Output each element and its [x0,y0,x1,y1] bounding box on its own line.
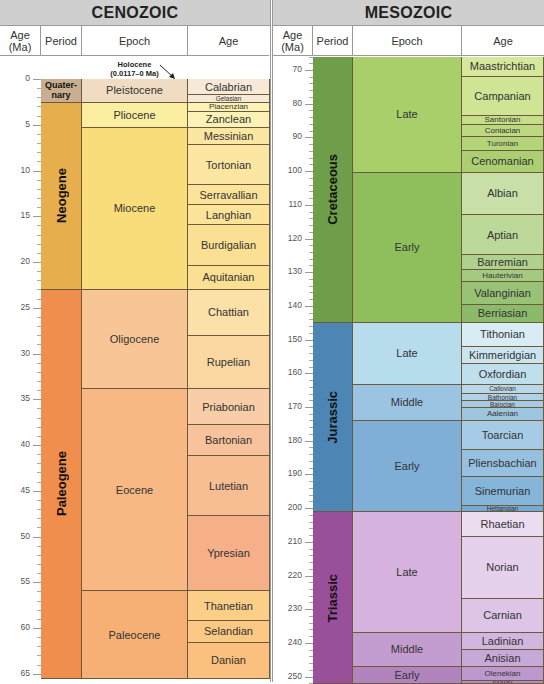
ages-block: Thanetian [188,591,270,620]
ages-block: Hettangian [462,506,544,513]
major-tick [305,508,313,509]
ages-label: Maastrichtian [470,60,535,72]
ages-label: Hauterivian [482,271,522,280]
ages-label: Selandian [204,625,253,637]
ages-label: Norian [486,561,518,573]
ages-block: Norian [462,537,544,599]
major-tick [305,205,313,206]
periods-block: Paleogene [41,290,82,680]
tick-label: 55 [4,576,30,586]
tick-label: 45 [4,485,30,495]
major-tick [33,445,41,446]
ages-block: Carnian [462,599,544,633]
epochs-label: Pleistocene [106,84,163,96]
ages-block: Olenekian [462,667,544,680]
ages-label: Sinemurian [475,485,531,497]
ages-label: Carnian [483,609,522,621]
tick-label: 160 [276,367,302,377]
ages-block: Piacenzian [188,103,270,112]
periods-block: Quater- nary [41,79,82,103]
tick-label: 230 [276,603,302,613]
ages-block: Albian [462,173,544,215]
ages-block: Santonian [462,116,544,125]
ages-label: Campanian [474,90,530,102]
major-tick [305,441,313,442]
ages-label: Valanginian [474,287,531,299]
ages-label: Danian [211,654,246,666]
tick-label: 0 [4,73,30,83]
ages-label: Thanetian [204,600,253,612]
ages-label: Anisian [484,652,520,664]
major-tick [33,491,41,492]
ages-label: Piacenzian [209,103,248,112]
ages-block: Lutetian [188,456,270,516]
major-tick [33,308,41,309]
major-tick [305,373,313,374]
major-tick [305,137,313,138]
major-tick [33,399,41,400]
epochs-block: Eocene [82,389,188,591]
ages-block: Bajocian [462,401,544,408]
major-tick [33,125,41,126]
epochs-label: Late [396,347,417,359]
ages-block: Bartonian [188,425,270,456]
ages-label: Kimmeridgian [469,349,536,361]
ages-label: Aptian [487,229,518,241]
ages-label: Bathonian [488,394,517,401]
ages-label: Rupelian [207,356,250,368]
ages-block: Serravallian [188,185,270,205]
ages-label: Chattian [208,306,249,318]
epochs-label: Early [394,460,419,472]
tick-label: 150 [276,334,302,344]
ages-label: Ypresian [207,547,250,559]
epochs-block: Miocene [82,128,188,290]
major-tick [33,628,41,629]
ages-block: Aalenian [462,408,544,421]
ages-block: Burdigalian [188,225,270,266]
ages-block: Selandian [188,621,270,643]
major-tick [305,643,313,644]
ages-label: Hettangian [487,506,518,512]
ages-block: Valanginian [462,282,544,305]
tick-label: 50 [4,531,30,541]
tick-label: 210 [276,536,302,546]
periods-label: Triassic [325,574,340,622]
periods-block: Jurassic [313,323,353,513]
cenozoic-panel: CENOZOIC Age (Ma) Period Epoch Age Holoc… [0,0,271,682]
ages-label: Santonian [484,116,520,125]
epochs-label: Early [394,241,419,253]
ages-block: Gelasian [188,95,270,102]
ages-label: Bajocian [490,401,515,407]
ages-block: Campanian [462,77,544,116]
tick-label: 100 [276,165,302,175]
periods-label: Paleogene [54,451,69,516]
ages-block: Chattian [188,290,270,336]
ages-block: Maastrichtian [462,57,544,78]
ages-block: Calabrian [188,79,270,95]
major-tick [305,340,313,341]
tick-label: 190 [276,468,302,478]
header-epoch: Epoch [353,26,462,56]
epochs-block: Early [353,421,462,513]
epochs-label: Pliocene [113,109,155,121]
ages-block: Pliensbachian [462,450,544,477]
tick-label: 35 [4,393,30,403]
ages-block: Coniacian [462,125,544,137]
header-age: Age [462,26,544,56]
major-tick [33,674,41,675]
ages-label: Bartonian [205,434,252,446]
ages-block: Rupelian [188,336,270,389]
major-tick [305,677,313,678]
ages-block: Tithonian [462,323,544,347]
tick-label: 180 [276,435,302,445]
major-tick [33,216,41,217]
epochs-block: Late [353,323,462,385]
ages-block: Hauterivian [462,270,544,282]
ages-label: Ladinian [482,635,524,647]
ages-label: Cenomanian [471,155,533,167]
major-tick [305,70,313,71]
ages-block: Ladinian [462,633,544,650]
ages-label: Aalenian [487,409,518,418]
ages-block: Danian [188,643,270,680]
major-tick [305,609,313,610]
